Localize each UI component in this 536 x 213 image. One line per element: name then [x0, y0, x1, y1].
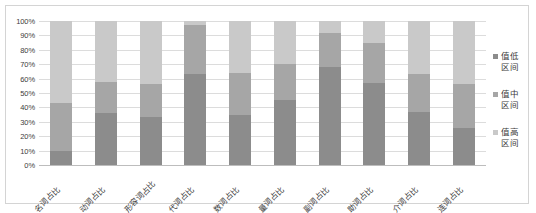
y-axis: 100%90%80%70%60%50%40%30%20%10%0% — [6, 21, 37, 165]
stacked-bar[interactable] — [363, 21, 385, 165]
bar-slot — [307, 21, 352, 165]
bar-slot — [218, 21, 263, 165]
stacked-bar[interactable] — [274, 21, 296, 165]
x-axis-slot: 助词占比 — [352, 165, 397, 205]
x-axis-slot: 介词占比 — [397, 165, 442, 205]
legend-item[interactable]: 值中区间 — [493, 89, 536, 111]
legend-label: 值低区间 — [501, 51, 523, 73]
x-axis-slot: 形容词占比 — [128, 165, 173, 205]
x-axis-slot: 数词占比 — [218, 165, 263, 205]
bar-segment[interactable] — [363, 83, 385, 165]
legend-color-swatch-icon — [493, 130, 498, 135]
bar-segment[interactable] — [274, 64, 296, 100]
stacked-bar[interactable] — [229, 21, 251, 165]
x-axis-slot: 副词占比 — [307, 165, 352, 205]
legend-color-swatch-icon — [493, 92, 498, 97]
bar-segment[interactable] — [50, 151, 72, 165]
bar-segment[interactable] — [319, 33, 341, 68]
x-axis: 名词占比动词占比形容词占比代词占比数词占比量词占比副词占比助词占比介词占比连词占… — [39, 165, 486, 205]
bar-segment[interactable] — [140, 84, 162, 117]
y-axis-tick-label: 80% — [20, 45, 35, 54]
bar-segment[interactable] — [319, 67, 341, 165]
bar-segment[interactable] — [408, 74, 430, 111]
plot-area — [39, 21, 486, 165]
bar-slot — [173, 21, 218, 165]
bar-segment[interactable] — [229, 21, 251, 73]
bar-segment[interactable] — [95, 113, 117, 165]
bar-segment[interactable] — [453, 128, 475, 165]
bar-segment[interactable] — [50, 21, 72, 103]
y-axis-tick-label: 0% — [24, 161, 35, 170]
bar-segment[interactable] — [95, 82, 117, 114]
bar-segment[interactable] — [95, 21, 117, 81]
x-axis-slot: 动词占比 — [84, 165, 129, 205]
legend-label: 值中区间 — [501, 89, 523, 111]
stacked-bar[interactable] — [184, 21, 206, 165]
y-axis-tick-label: 90% — [20, 31, 35, 40]
x-axis-slot: 连词占比 — [441, 165, 486, 205]
bar-slot — [84, 21, 129, 165]
y-axis-tick-label: 60% — [20, 74, 35, 83]
bar-segment[interactable] — [319, 21, 341, 33]
bar-slot — [352, 21, 397, 165]
bar-segment[interactable] — [363, 21, 385, 43]
bar-segment[interactable] — [184, 74, 206, 165]
legend-label: 值高区间 — [501, 127, 523, 149]
bar-slot — [441, 21, 486, 165]
bars-layer — [39, 21, 486, 165]
legend-color-swatch-icon — [493, 54, 498, 59]
stacked-bar[interactable] — [50, 21, 72, 165]
x-axis-slot: 量词占比 — [263, 165, 308, 205]
bar-segment[interactable] — [274, 21, 296, 64]
bar-segment[interactable] — [408, 21, 430, 74]
bar-slot — [128, 21, 173, 165]
chart-frame: 100%90%80%70%60%50%40%30%20%10%0% 名词占比动词… — [5, 5, 529, 204]
stacked-bar[interactable] — [408, 21, 430, 165]
bar-segment[interactable] — [140, 21, 162, 84]
y-axis-tick-label: 40% — [20, 103, 35, 112]
legend-item[interactable]: 值高区间 — [493, 127, 536, 149]
y-axis-tick-label: 100% — [16, 17, 35, 26]
stacked-bar[interactable] — [319, 21, 341, 165]
bar-segment[interactable] — [184, 25, 206, 74]
stacked-bar[interactable] — [95, 21, 117, 165]
bar-slot — [263, 21, 308, 165]
stacked-bar[interactable] — [453, 21, 475, 165]
y-axis-tick-label: 30% — [20, 117, 35, 126]
bar-segment[interactable] — [363, 43, 385, 83]
y-axis-tick-label: 70% — [20, 60, 35, 69]
x-axis-slot: 代词占比 — [173, 165, 218, 205]
bar-segment[interactable] — [274, 100, 296, 165]
bar-segment[interactable] — [50, 103, 72, 151]
y-axis-tick-label: 50% — [20, 89, 35, 98]
bar-segment[interactable] — [229, 73, 251, 115]
bar-slot — [39, 21, 84, 165]
x-axis-slot: 名词占比 — [39, 165, 84, 205]
legend-item[interactable]: 值低区间 — [493, 51, 536, 73]
stacked-bar[interactable] — [140, 21, 162, 165]
chart-legend: 值低区间值中区间值高区间 — [493, 51, 536, 165]
y-axis-tick-label: 20% — [20, 132, 35, 141]
bar-segment[interactable] — [408, 112, 430, 165]
y-axis-tick-label: 10% — [20, 146, 35, 155]
bar-segment[interactable] — [453, 84, 475, 127]
bar-segment[interactable] — [140, 117, 162, 165]
x-axis-tick-label: 名词占比 — [32, 184, 62, 211]
bar-segment[interactable] — [453, 21, 475, 84]
bar-slot — [397, 21, 442, 165]
bar-segment[interactable] — [229, 115, 251, 165]
